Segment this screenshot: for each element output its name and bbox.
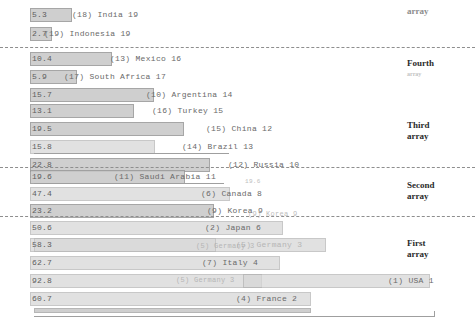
table-row: 5.3 (18) India 19 bbox=[0, 8, 475, 24]
bar-value-label: 19.5 bbox=[32, 123, 52, 135]
bar-value-label: 50.6 bbox=[32, 222, 52, 234]
table-row: 13.1 (16) Turkey 15 bbox=[0, 104, 475, 120]
bar-category-label: (11) Saudi Arabia 11 bbox=[114, 171, 216, 183]
array-caption-label: array bbox=[407, 6, 429, 16]
table-row: 23.2 (9) Korea 9 (9) Korea 9 bbox=[0, 204, 475, 220]
bar-category-label: (13) Mexico 16 bbox=[110, 53, 181, 65]
bar-category-label-overlap: 19.6 bbox=[245, 176, 261, 188]
bar-value-label: 10.4 bbox=[32, 53, 52, 65]
array-caption-sub: array bbox=[407, 191, 469, 202]
bar-underline bbox=[34, 183, 224, 184]
bar-category-label: (19) Indonesia 19 bbox=[44, 28, 131, 40]
bar-category-label-overlap: (9) Korea 9 bbox=[248, 208, 298, 220]
table-row: 10.4 (13) Mexico 16 bbox=[0, 52, 475, 68]
bar-value-label: 13.1 bbox=[32, 105, 52, 117]
table-row: 19.5 (15) China 12 bbox=[0, 122, 475, 138]
array-caption-second: Second array bbox=[407, 180, 469, 202]
axis-baseline bbox=[34, 316, 435, 317]
section-divider bbox=[0, 167, 475, 168]
bar-value-label: 92.8 bbox=[32, 275, 52, 287]
table-row: 62.7 (7) Italy 4 bbox=[0, 256, 475, 272]
bar bbox=[30, 187, 230, 201]
table-row: 50.6 (2) Japan 6 bbox=[0, 221, 475, 237]
array-caption-label: Second bbox=[407, 180, 435, 190]
table-row: 58.3 (5) Germany 3 (5) Germany 3 bbox=[0, 238, 475, 254]
horizontal-bar-chart: 5.3 (18) India 19 2.7 (19) Indonesia 19 … bbox=[0, 0, 475, 322]
bar-category-label: (14) Brazil 13 bbox=[182, 141, 253, 153]
bar-overlap bbox=[34, 238, 216, 252]
array-caption-label: Third bbox=[407, 120, 430, 130]
bar-value-label: 62.7 bbox=[32, 257, 52, 269]
table-row: 19.6 (11) Saudi Arabia 11 19.6 bbox=[0, 170, 475, 186]
array-caption-third: Third array bbox=[407, 120, 469, 142]
bar-category-label-overlap: (5) Germany 3 bbox=[176, 274, 235, 286]
bar-value-label: 5.3 bbox=[32, 9, 47, 21]
bar-value-label: 19.6 bbox=[32, 171, 52, 183]
array-caption-sub: array bbox=[407, 131, 469, 142]
table-row: 15.7 (10) Argentina 14 bbox=[0, 88, 475, 104]
bar-category-label: (4) France 2 bbox=[236, 293, 297, 305]
bar bbox=[30, 122, 184, 136]
bar-value-label: 5.9 bbox=[32, 71, 47, 83]
bar-category-label: (17) South Africa 17 bbox=[64, 71, 166, 83]
array-caption-label: Fourth bbox=[407, 58, 434, 68]
table-row: 15.8 (14) Brazil 13 bbox=[0, 140, 475, 156]
bar-category-label: (15) China 12 bbox=[206, 123, 272, 135]
array-caption-sub: array bbox=[407, 249, 469, 260]
axis-end-tick bbox=[434, 311, 435, 317]
section-divider bbox=[0, 216, 475, 217]
bar-category-label: (16) Turkey 15 bbox=[152, 105, 223, 117]
table-row: 47.4 (6) Canada 8 bbox=[0, 187, 475, 203]
table-row: 60.7 (4) France 2 bbox=[0, 292, 475, 308]
bar-category-label: (6) Canada 8 bbox=[201, 188, 262, 200]
bar-category-label: (2) Japan 6 bbox=[205, 222, 261, 234]
bar-category-label-overlap: (5) Germany 3 bbox=[196, 240, 255, 252]
bar-value-label: 60.7 bbox=[32, 293, 52, 305]
bar-value-label: 22.8 bbox=[32, 159, 52, 171]
section-divider bbox=[0, 47, 475, 48]
table-row: 5.9 (17) South Africa 17 bbox=[0, 70, 475, 86]
bar-underline bbox=[34, 153, 229, 154]
bar-category-label: (1) USA 1 bbox=[388, 275, 434, 287]
bar-category-label: (12) Russia 10 bbox=[228, 159, 299, 171]
bar-value-label: 15.7 bbox=[32, 89, 52, 101]
array-caption-first: First array bbox=[407, 238, 469, 260]
bar-category-label: (18) India 19 bbox=[72, 9, 138, 21]
array-caption-sub: array bbox=[407, 69, 469, 80]
axis-band-upper bbox=[34, 308, 311, 313]
array-caption-label: First bbox=[407, 238, 426, 248]
bar-category-label: (7) Italy 4 bbox=[202, 257, 258, 269]
table-row: 92.8 (5) Germany 3 (1) USA 1 bbox=[0, 274, 475, 290]
array-caption-fifth: array bbox=[407, 6, 469, 17]
bar-value-label: 58.3 bbox=[32, 239, 52, 251]
bar-value-label: 15.8 bbox=[32, 141, 52, 153]
bar-category-label: (10) Argentina 14 bbox=[146, 89, 233, 101]
table-row: 2.7 (19) Indonesia 19 bbox=[0, 27, 475, 43]
array-caption-fourth: Fourth array bbox=[407, 58, 469, 80]
bar-value-label: 47.4 bbox=[32, 188, 52, 200]
